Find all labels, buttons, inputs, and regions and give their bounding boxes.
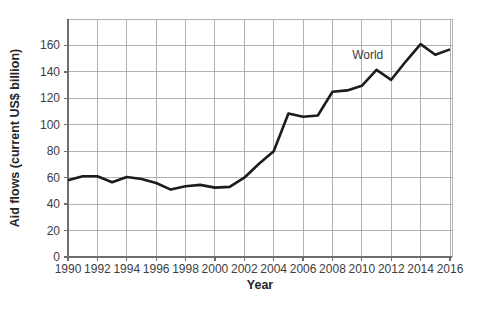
y-tick-label: 60 <box>47 171 61 185</box>
y-tick-label: 160 <box>40 38 60 52</box>
x-tick-label: 2010 <box>348 262 375 276</box>
x-tick-label: 1994 <box>113 262 140 276</box>
x-tick-label: 2006 <box>290 262 317 276</box>
y-tick-label: 120 <box>40 91 60 105</box>
x-tick-label: 1992 <box>84 262 111 276</box>
x-tick-label: 1996 <box>143 262 170 276</box>
axes <box>64 19 452 261</box>
gridlines <box>68 19 452 257</box>
x-tick-label: 1990 <box>55 262 82 276</box>
x-tick-label: 2016 <box>437 262 464 276</box>
y-tick-label: 140 <box>40 65 60 79</box>
y-axis-tick-labels: 020406080100120140160 <box>40 38 60 264</box>
x-tick-label: 2004 <box>260 262 287 276</box>
aid-flows-chart-figure: 1990199219941996199820002002200420062008… <box>0 0 483 309</box>
series-label-world: World <box>352 48 383 62</box>
y-tick-label: 80 <box>47 144 61 158</box>
y-tick-label: 20 <box>47 224 61 238</box>
y-tick-label: 40 <box>47 197 61 211</box>
y-tick-label: 100 <box>40 118 60 132</box>
x-tick-label: 1998 <box>172 262 199 276</box>
x-tick-label: 2008 <box>319 262 346 276</box>
y-axis-title: Aid flows (current US$ billion) <box>8 49 22 227</box>
world-series-line <box>68 44 450 190</box>
y-tick-label: 0 <box>53 250 60 264</box>
x-tick-label: 2002 <box>231 262 258 276</box>
x-tick-label: 2000 <box>202 262 229 276</box>
x-axis-title: Year <box>247 278 274 292</box>
aid-flows-line-chart: 1990199219941996199820002002200420062008… <box>0 0 483 309</box>
x-tick-label: 2012 <box>378 262 405 276</box>
x-axis-tick-labels: 1990199219941996199820002002200420062008… <box>55 262 464 276</box>
x-tick-label: 2014 <box>407 262 434 276</box>
